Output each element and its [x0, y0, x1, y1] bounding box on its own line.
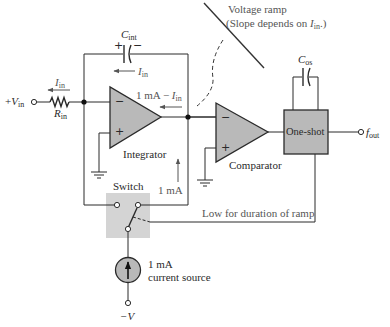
capacitor-cos — [303, 68, 310, 86]
feedback-current-label: Iin — [138, 66, 148, 79]
ground-integrator — [91, 172, 107, 178]
current-source — [116, 258, 141, 283]
input-voltage-label: +Vin — [5, 96, 24, 109]
input-current-label: Iin — [55, 77, 65, 90]
resistor-rin — [50, 98, 69, 107]
switch-terminal-common — [125, 226, 130, 231]
current-source-value: 1 mA — [148, 259, 173, 270]
cint-minus-sign: − — [133, 40, 142, 51]
ramp-annotation-line2: (Slope depends on Iin.) — [226, 18, 326, 31]
comparator-label: Comparator — [229, 160, 282, 171]
ramp-pointer-dashed — [197, 40, 223, 106]
switch-terminal-left — [114, 202, 119, 207]
cos-label: Cos — [298, 54, 312, 67]
switch-current-label: 1 mA — [158, 185, 183, 196]
output-frequency-label: fout — [366, 127, 379, 140]
comparator-minus-input: − — [221, 112, 230, 123]
comparator-plus-input: + — [221, 142, 230, 153]
supply-voltage-label: −V — [120, 311, 134, 322]
integrator-plus-input: + — [115, 126, 124, 137]
ramp-annotation-line1: Voltage ramp — [228, 4, 287, 15]
capacitor-cint — [124, 45, 131, 63]
ground-comparator — [197, 180, 213, 186]
vfc-circuit-diagram: +Vin Rin Iin Cint + − Iin 1 mA − Iin − +… — [0, 0, 390, 327]
control-annotation-label: Low for duration of ramp — [202, 208, 314, 219]
integrator-minus-input: − — [115, 96, 124, 107]
output-terminal — [358, 129, 363, 134]
input-terminal — [31, 99, 50, 104]
supply-terminal — [125, 300, 130, 305]
resistor-label: Rin — [54, 108, 67, 121]
current-source-label: current source — [148, 272, 211, 283]
one-shot-label: One-shot — [286, 127, 325, 138]
switch-label: Switch — [113, 181, 144, 192]
switch-terminal-right — [135, 202, 140, 207]
difference-current-label: 1 mA − Iin — [136, 90, 182, 103]
cint-plus-sign: + — [114, 40, 123, 51]
integrator-label: Integrator — [123, 149, 166, 160]
